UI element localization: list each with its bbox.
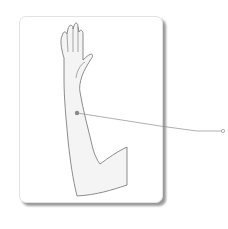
- arm-shape: [61, 23, 127, 196]
- callout-end-circle: [221, 129, 224, 132]
- leader-line: [77, 113, 221, 131]
- arm-outline: [61, 23, 127, 196]
- arm-illustration: [0, 0, 228, 229]
- point-marker[interactable]: [75, 111, 79, 115]
